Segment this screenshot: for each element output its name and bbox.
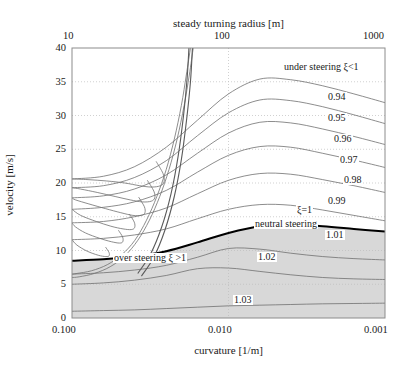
contour-label-096: 0.96 (333, 134, 353, 144)
contour-label-xi-equals-1: ξ=1 (296, 205, 313, 215)
left-tick-30: 30 (46, 111, 66, 122)
top-tick-100: 100 (214, 31, 230, 42)
left-axis-title: velocity [m/s] (4, 154, 15, 215)
contour-label-097: 0.97 (339, 155, 359, 165)
contour-label-094: 0.94 (327, 92, 347, 102)
contour-label-103: 1.03 (233, 295, 253, 305)
bottom-tick-0010: 0.010 (208, 325, 232, 336)
chart-figure: steady turning radius [m] 10 100 1000 0.… (0, 0, 413, 371)
left-axis-title-wrapper: velocity [m/s] (2, 140, 16, 230)
left-tick-20: 20 (46, 178, 66, 189)
contour-label-098: 0.98 (343, 175, 363, 185)
top-tick-1000: 1000 (363, 31, 384, 42)
left-tick-40: 40 (46, 43, 66, 54)
bottom-tick-0100: 0.100 (52, 325, 76, 336)
annotation-over-steering: over steering ξ >1 (113, 253, 187, 263)
contour-label-095: 0.95 (327, 113, 347, 123)
contour-label-099: 0.99 (327, 196, 347, 206)
left-tick-35: 35 (46, 77, 66, 88)
contour-label-101: 1.01 (325, 230, 345, 240)
top-tick-10: 10 (63, 31, 74, 42)
top-axis-title: steady turning radius [m] (131, 18, 326, 29)
bottom-tick-0001: 0.001 (364, 325, 388, 336)
left-tick-25: 25 (46, 144, 66, 155)
bottom-axis-title: curvature [1/m] (131, 345, 326, 356)
left-tick-0: 0 (46, 313, 66, 324)
contour-label-102: 1.02 (257, 252, 277, 262)
annotation-under-steering: under steering ξ<1 (283, 62, 360, 72)
left-tick-5: 5 (46, 279, 66, 290)
left-tick-15: 15 (46, 212, 66, 223)
annotation-neutral-steering: neutral steering (254, 219, 318, 229)
left-tick-10: 10 (46, 246, 66, 257)
